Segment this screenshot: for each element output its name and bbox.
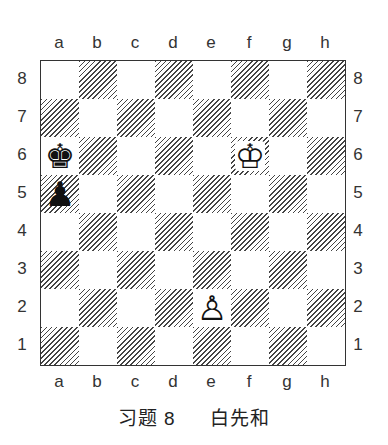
square-g2[interactable] xyxy=(269,289,307,327)
square-e8[interactable] xyxy=(193,61,231,99)
file-label-e: e xyxy=(192,372,230,392)
square-h5[interactable] xyxy=(307,175,345,213)
square-b2[interactable] xyxy=(79,289,117,327)
square-b1[interactable] xyxy=(79,327,117,365)
square-e4[interactable] xyxy=(193,213,231,251)
square-h7[interactable] xyxy=(307,99,345,137)
rank-label-8: 8 xyxy=(348,60,368,98)
square-h1[interactable] xyxy=(307,327,345,365)
square-f5[interactable] xyxy=(231,175,269,213)
square-e7[interactable] xyxy=(193,99,231,137)
square-d3[interactable] xyxy=(155,251,193,289)
rank-label-5: 5 xyxy=(12,174,32,212)
square-c7[interactable] xyxy=(117,99,155,137)
file-label-c: c xyxy=(116,372,154,392)
file-label-c: c xyxy=(116,33,154,53)
square-e2[interactable]: ♙ xyxy=(193,289,231,327)
rank-label-7: 7 xyxy=(12,98,32,136)
square-b3[interactable] xyxy=(79,251,117,289)
square-f7[interactable] xyxy=(231,99,269,137)
square-b4[interactable] xyxy=(79,213,117,251)
square-g4[interactable] xyxy=(269,213,307,251)
square-c5[interactable] xyxy=(117,175,155,213)
square-d5[interactable] xyxy=(155,175,193,213)
rank-label-6: 6 xyxy=(348,136,368,174)
square-f4[interactable] xyxy=(231,213,269,251)
square-c8[interactable] xyxy=(117,61,155,99)
rank-label-7: 7 xyxy=(348,98,368,136)
square-d1[interactable] xyxy=(155,327,193,365)
square-g5[interactable] xyxy=(269,175,307,213)
square-f2[interactable] xyxy=(231,289,269,327)
file-label-d: d xyxy=(154,372,192,392)
square-e3[interactable] xyxy=(193,251,231,289)
square-h3[interactable] xyxy=(307,251,345,289)
file-label-b: b xyxy=(78,372,116,392)
square-h2[interactable] xyxy=(307,289,345,327)
square-f3[interactable] xyxy=(231,251,269,289)
square-a2[interactable] xyxy=(41,289,79,327)
square-h4[interactable] xyxy=(307,213,345,251)
square-a3[interactable] xyxy=(41,251,79,289)
square-f1[interactable] xyxy=(231,327,269,365)
square-g6[interactable] xyxy=(269,137,307,175)
square-d8[interactable] xyxy=(155,61,193,99)
square-d6[interactable] xyxy=(155,137,193,175)
white-pawn-icon[interactable]: ♙ xyxy=(197,289,227,327)
rank-label-4: 4 xyxy=(348,212,368,250)
rank-label-4: 4 xyxy=(12,212,32,250)
file-label-f: f xyxy=(230,372,268,392)
square-b7[interactable] xyxy=(79,99,117,137)
square-g8[interactable] xyxy=(269,61,307,99)
rank-label-3: 3 xyxy=(348,250,368,288)
square-d7[interactable] xyxy=(155,99,193,137)
file-label-b: b xyxy=(78,33,116,53)
rank-label-8: 8 xyxy=(12,60,32,98)
square-c3[interactable] xyxy=(117,251,155,289)
square-h6[interactable] xyxy=(307,137,345,175)
rank-label-3: 3 xyxy=(12,250,32,288)
square-c4[interactable] xyxy=(117,213,155,251)
square-g7[interactable] xyxy=(269,99,307,137)
square-c2[interactable] xyxy=(117,289,155,327)
file-label-a: a xyxy=(40,33,78,53)
file-label-a: a xyxy=(40,372,78,392)
file-label-e: e xyxy=(192,33,230,53)
square-d2[interactable] xyxy=(155,289,193,327)
rank-label-2: 2 xyxy=(348,288,368,326)
square-b5[interactable] xyxy=(79,175,117,213)
file-label-h: h xyxy=(306,33,344,53)
square-b6[interactable] xyxy=(79,137,117,175)
file-label-d: d xyxy=(154,33,192,53)
exercise-task: 白先和 xyxy=(210,403,270,430)
square-e5[interactable] xyxy=(193,175,231,213)
rank-label-1: 1 xyxy=(348,326,368,364)
square-a7[interactable] xyxy=(41,99,79,137)
rank-label-6: 6 xyxy=(12,136,32,174)
square-d4[interactable] xyxy=(155,213,193,251)
black-king-icon[interactable]: ♚ xyxy=(45,137,75,175)
rank-label-5: 5 xyxy=(348,174,368,212)
chess-board: ♚ ♔ ♟ xyxy=(40,60,346,366)
square-h8[interactable] xyxy=(307,61,345,99)
square-a4[interactable] xyxy=(41,213,79,251)
rank-label-1: 1 xyxy=(12,326,32,364)
square-f6[interactable]: ♔ xyxy=(231,137,269,175)
square-a6[interactable]: ♚ xyxy=(41,137,79,175)
square-c6[interactable] xyxy=(117,137,155,175)
exercise-title: 习题 8 xyxy=(118,403,176,430)
square-a1[interactable] xyxy=(41,327,79,365)
diagram-caption: 习题 8 白先和 xyxy=(0,403,388,430)
square-g1[interactable] xyxy=(269,327,307,365)
black-pawn-icon[interactable]: ♟ xyxy=(45,175,75,213)
square-b8[interactable] xyxy=(79,61,117,99)
square-e1[interactable] xyxy=(193,327,231,365)
file-label-f: f xyxy=(230,33,268,53)
square-g3[interactable] xyxy=(269,251,307,289)
square-f8[interactable] xyxy=(231,61,269,99)
square-c1[interactable] xyxy=(117,327,155,365)
square-e6[interactable] xyxy=(193,137,231,175)
square-a8[interactable] xyxy=(41,61,79,99)
white-king-icon[interactable]: ♔ xyxy=(235,137,265,175)
square-a5[interactable]: ♟ xyxy=(41,175,79,213)
